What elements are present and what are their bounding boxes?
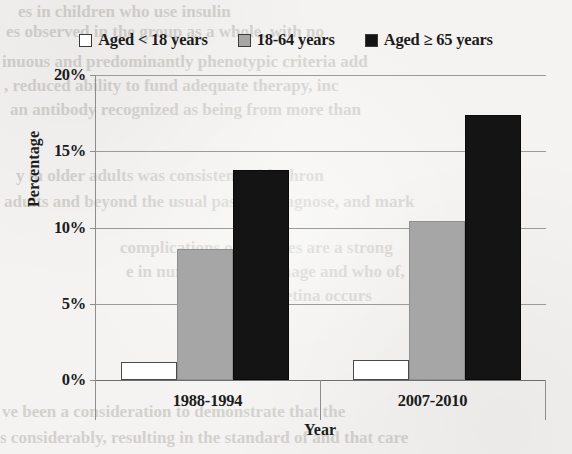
y-tick-label: 20% [24,65,86,85]
x-axis: 1988-1994 2007-2010 [95,380,545,420]
category-separator [545,380,546,420]
y-tick-mark [90,151,96,152]
legend-label: Aged ≥ 65 years [384,32,493,49]
legend-item-18-64: 18-64 years [238,32,335,49]
y-tick-label: 15% [24,141,86,161]
plot-area [95,75,546,380]
bar-2007-2010-aged-65-plus [465,115,521,380]
y-tick-mark [90,75,96,76]
chart-legend: Aged < 18 years 18-64 years Aged ≥ 65 ye… [0,28,572,52]
y-tick-label: 0% [24,370,86,390]
legend-swatch-gray-icon [238,34,251,47]
y-tick-mark [90,228,96,229]
bar-2007-2010-aged-under-18 [353,360,409,380]
legend-item-aged-65-plus: Aged ≥ 65 years [365,32,493,49]
y-tick-label: 10% [24,218,86,238]
legend-swatch-white-icon [79,34,92,47]
x-tick-label-1988-1994: 1988-1994 [95,391,320,411]
gridline-20 [96,75,546,76]
y-tick-mark [90,304,96,305]
bar-1988-1994-aged-under-18 [121,362,177,380]
bar-1988-1994-18-64 [177,249,233,380]
legend-label: Aged < 18 years [98,32,208,49]
bar-2007-2010-18-64 [409,221,465,380]
y-tick-label: 5% [24,294,86,314]
bar-chart: Aged < 18 years 18-64 years Aged ≥ 65 ye… [0,0,572,454]
x-axis-title: Year [95,421,545,439]
legend-item-aged-under-18: Aged < 18 years [79,32,208,49]
bar-1988-1994-aged-65-plus [233,170,289,380]
legend-label: 18-64 years [257,32,335,49]
legend-swatch-black-icon [365,34,378,47]
y-axis-tick-labels: 20% 15% 10% 5% 0% [24,75,86,380]
x-tick-label-2007-2010: 2007-2010 [320,391,545,411]
